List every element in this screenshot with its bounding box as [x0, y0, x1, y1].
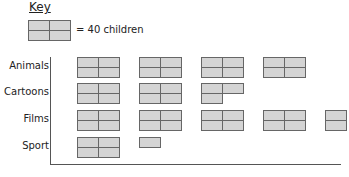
- full-icon: [139, 83, 181, 103]
- row-label-cartoons: Cartoons: [4, 86, 49, 97]
- key-icon: [28, 20, 70, 40]
- full-icon: [201, 110, 243, 130]
- full-icon: [77, 83, 119, 103]
- undefined: [0, 0, 42, 20]
- full-icon: [77, 137, 119, 157]
- row-label-films: Films: [23, 113, 49, 124]
- x-axis: [50, 164, 341, 165]
- partial-icon: [201, 83, 243, 103]
- full-icon: [139, 57, 181, 77]
- full-icon: [263, 57, 305, 77]
- full-icon: [263, 110, 305, 130]
- row-label-sport: Sport: [22, 140, 49, 151]
- full-icon: [77, 110, 119, 130]
- y-axis: [50, 57, 51, 165]
- partial-icon: [325, 110, 349, 130]
- full-icon: [139, 110, 181, 130]
- row-label-animals: Animals: [9, 60, 49, 71]
- full-icon: [77, 57, 119, 77]
- full-icon: [201, 57, 243, 77]
- key-label: = 40 children: [76, 24, 144, 35]
- partial-icon: [139, 137, 181, 157]
